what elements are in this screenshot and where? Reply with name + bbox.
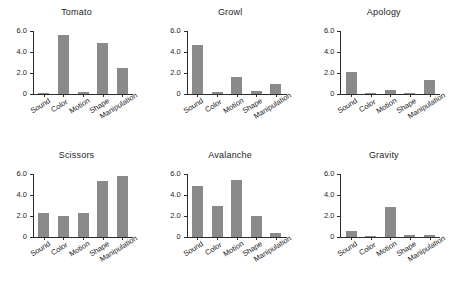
y-axis-tick: 0 [30,237,34,238]
y-axis-tick-label: 2.0 [324,211,334,220]
bar [231,180,242,237]
chart-panel-avalanche: Avalanche6.04.02.00SoundColorMotionShape… [154,143,307,286]
x-axis-label-text: Sound [182,239,205,258]
bar [97,43,108,94]
y-axis-tick: 0 [337,94,341,95]
bar [231,77,242,94]
y-axis-tick-label: 6.0 [324,169,334,178]
y-axis-tick: 0 [337,237,341,238]
bar [192,45,203,94]
x-axis-label-text: Sound [29,96,52,115]
bar [97,181,108,237]
x-axis-labels: SoundColorMotionShapeManipulation [34,240,132,284]
bar [251,216,262,237]
plot-area [341,31,439,94]
y-axis-tick-label: 0 [23,232,27,241]
small-multiples-bar-chart-figure: Tomato6.04.02.00SoundColorMotionShapeMan… [0,0,461,286]
bar [212,206,223,238]
y-axis-tick: 0 [184,237,188,238]
x-axis-labels: SoundColorMotionShapeManipulation [188,97,286,141]
y-axis-tick-label: 6.0 [170,26,180,35]
y-axis-tick-label: 0 [330,89,334,98]
x-axis-labels: SoundColorMotionShapeManipulation [341,97,439,141]
x-axis-labels: SoundColorMotionShapeManipulation [341,240,439,284]
y-axis-tick-label: 0 [176,89,180,98]
chart-title: Gravity [307,150,460,160]
plot-area [188,174,286,237]
x-axis-label-text: Sound [336,96,359,115]
x-axis-label-text: Sound [182,96,205,115]
bar [38,213,49,237]
y-axis-tick-label: 2.0 [324,68,334,77]
chart-panel-tomato: Tomato6.04.02.00SoundColorMotionShapeMan… [0,0,153,143]
y-axis-tick-label: 2.0 [170,68,180,77]
y-axis-tick-label: 0 [330,232,334,241]
bar [117,68,128,94]
y-axis-tick-label: 4.0 [17,190,27,199]
chart-panel-apology: Apology6.04.02.00SoundColorMotionShapeMa… [307,0,460,143]
chart-title: Tomato [0,7,153,17]
y-axis-tick: 0 [30,94,34,95]
y-axis-tick-label: 2.0 [170,211,180,220]
x-axis-labels: SoundColorMotionShapeManipulation [188,240,286,284]
bar [117,176,128,237]
x-axis-label-text: Sound [29,239,52,258]
bar [192,186,203,237]
y-axis-tick-label: 0 [176,232,180,241]
chart-panel-scissors: Scissors6.04.02.00SoundColorMotionShapeM… [0,143,153,286]
y-axis-tick-label: 4.0 [324,47,334,56]
plot-area [341,174,439,237]
chart-title: Avalanche [154,150,307,160]
y-axis-tick-label: 6.0 [324,26,334,35]
plot-area [34,174,132,237]
y-axis-tick-label: 4.0 [170,47,180,56]
bar [424,80,435,94]
y-axis-tick-label: 6.0 [17,169,27,178]
y-axis-tick-label: 6.0 [170,169,180,178]
plot-area [34,31,132,94]
y-axis-tick-label: 4.0 [170,190,180,199]
y-axis-tick-label: 2.0 [17,68,27,77]
plot-area [188,31,286,94]
y-axis-tick-label: 2.0 [17,211,27,220]
bar [385,207,396,237]
chart-title: Growl [154,7,307,17]
chart-panel-gravity: Gravity6.04.02.00SoundColorMotionShapeMa… [307,143,460,286]
chart-title: Apology [307,7,460,17]
y-axis-tick-label: 4.0 [324,190,334,199]
bar [346,72,357,94]
bar [58,35,69,94]
chart-panel-growl: Growl6.04.02.00SoundColorMotionShapeMani… [154,0,307,143]
chart-title: Scissors [0,150,153,160]
x-axis-label-text: Sound [336,239,359,258]
bar [58,216,69,237]
x-axis-labels: SoundColorMotionShapeManipulation [34,97,132,141]
y-axis-tick-label: 0 [23,89,27,98]
bar [78,213,89,237]
y-axis-tick-label: 4.0 [17,47,27,56]
y-axis-tick-label: 6.0 [17,26,27,35]
y-axis-tick: 0 [184,94,188,95]
